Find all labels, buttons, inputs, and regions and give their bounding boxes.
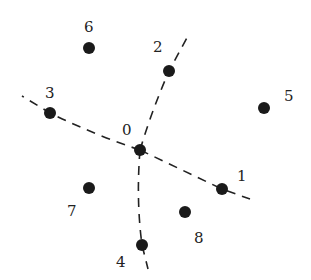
node-0: [134, 144, 146, 156]
node-label-0: 0: [122, 121, 132, 139]
edge-0-1: [140, 150, 250, 199]
node-5: [258, 102, 270, 114]
node-2: [163, 65, 175, 77]
node-8: [179, 206, 191, 218]
node-label-7: 7: [67, 202, 77, 220]
node-4: [136, 239, 148, 251]
node-label-3: 3: [45, 84, 55, 102]
node-label-8: 8: [194, 229, 204, 247]
node-label-4: 4: [116, 253, 126, 271]
diagram-svg: 012345678: [0, 0, 311, 280]
diagram-canvas: 012345678: [0, 0, 311, 280]
edge-0-2: [140, 34, 189, 150]
node-label-6: 6: [84, 18, 94, 36]
node-3: [44, 107, 56, 119]
node-7: [83, 182, 95, 194]
node-label-1: 1: [237, 167, 247, 185]
node-1: [216, 183, 228, 195]
edge-0-4: [138, 150, 148, 269]
node-6: [83, 42, 95, 54]
node-labels: 012345678: [45, 18, 294, 271]
nodes: [44, 42, 270, 251]
node-label-5: 5: [284, 87, 294, 105]
node-label-2: 2: [153, 38, 163, 56]
